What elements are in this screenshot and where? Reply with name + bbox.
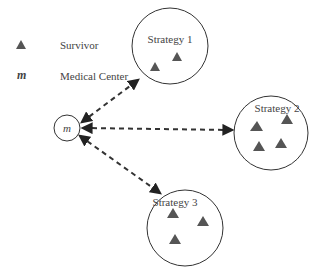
medical-center-legend-m-icon: m — [17, 68, 26, 82]
strategy-diagram: Survivor m Medical Center m Strategy 1 S… — [0, 0, 325, 270]
strategy-3-node: Strategy 3 — [147, 190, 223, 266]
strategy-1-node: Strategy 1 — [132, 8, 208, 84]
arrow-to-strategy-1 — [82, 80, 138, 122]
arrow-to-strategy-2 — [83, 128, 232, 130]
strategy-3-label: Strategy 3 — [153, 196, 198, 208]
strategy-2-label: Strategy 2 — [255, 102, 300, 114]
medical-center-m-icon: m — [63, 122, 71, 134]
survivor-legend-triangle-icon — [16, 40, 26, 49]
strategy-2-node: Strategy 2 — [234, 96, 308, 170]
legend-survivor-label: Survivor — [60, 39, 99, 51]
legend: Survivor m Medical Center — [16, 39, 128, 82]
strategy-1-label: Strategy 1 — [148, 33, 193, 45]
arrow-to-strategy-3 — [80, 136, 160, 193]
medical-center-node: m — [54, 115, 80, 141]
legend-medical-center-label: Medical Center — [60, 70, 128, 82]
arrows — [80, 80, 232, 193]
